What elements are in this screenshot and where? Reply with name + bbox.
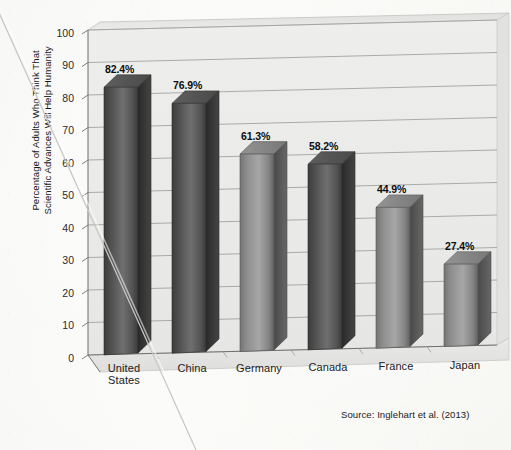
- data-label-germany: 61.3%: [241, 130, 270, 142]
- bar-china[interactable]: [172, 91, 219, 353]
- data-label-china: 76.9%: [173, 79, 202, 91]
- x-category-label-japan: Japan: [433, 359, 497, 371]
- data-label-france: 44.9%: [377, 183, 406, 195]
- bar-canada[interactable]: [308, 152, 355, 350]
- y-axis-title: Percentage of Adults Who Think That Scie…: [30, 20, 55, 240]
- bar-side-face: [274, 142, 287, 350]
- bar-france[interactable]: [376, 195, 423, 348]
- plot-wall-right-cap: [497, 13, 509, 345]
- bar-united-states[interactable]: [104, 75, 151, 355]
- bar-japan[interactable]: [444, 252, 491, 347]
- data-label-canada: 58.2%: [309, 140, 338, 152]
- x-category-line1: United: [108, 362, 140, 374]
- bar-side-face: [410, 195, 423, 347]
- x-category-label-china: China: [160, 362, 224, 374]
- bar-front-face: [240, 154, 274, 352]
- x-category-label-germany: Germany: [226, 362, 292, 374]
- y-axis-title-line1: Percentage of Adults Who Think That: [30, 20, 42, 240]
- bar-front-face: [172, 103, 206, 353]
- y-tick-label-20: 20: [48, 287, 74, 299]
- bar-side-face: [206, 91, 219, 352]
- bar-side-face: [478, 252, 491, 345]
- y-tick-marks: [82, 30, 88, 359]
- chart-canvas: [0, 0, 511, 450]
- source-note: Source: Inglehart et al. (2013): [341, 409, 469, 420]
- data-label-japan: 27.4%: [445, 240, 474, 252]
- bar-front-face: [376, 207, 410, 348]
- bar-side-face: [342, 152, 355, 349]
- y-tick-label-10: 10: [48, 319, 74, 331]
- x-category-label-france: France: [364, 360, 428, 372]
- bar-germany[interactable]: [240, 142, 287, 352]
- y-tick-label-30: 30: [48, 254, 74, 266]
- x-category-label-canada: Canada: [296, 361, 360, 373]
- y-tick-label-0: 0: [48, 352, 74, 364]
- bar-side-face: [138, 75, 151, 353]
- bar-chart: 100 90 80 70 60 50 40 30 20 10 0 82.4% 7…: [0, 0, 511, 450]
- bar-front-face: [444, 264, 478, 346]
- x-category-label-united-states: United States: [92, 362, 156, 386]
- bar-front-face: [308, 164, 342, 350]
- data-label-united-states: 82.4%: [105, 63, 134, 75]
- y-axis-title-line2: Scientific Advances Will Help Humanity: [42, 20, 54, 240]
- x-category-line2: States: [92, 374, 156, 386]
- bar-front-face: [104, 87, 138, 355]
